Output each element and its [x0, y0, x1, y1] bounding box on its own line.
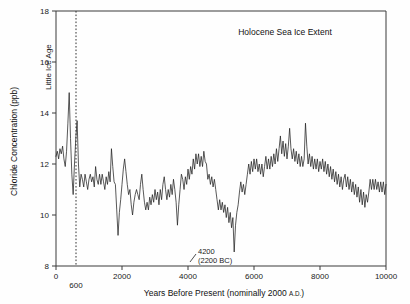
x-tick-label-4000: 4000 [179, 272, 197, 281]
holocene-sea-ice-chart: 8 10 12 14 16 18 0 2000 4000 6000 8000 1… [0, 0, 410, 304]
y-tick-label-18: 18 [40, 7, 49, 16]
little-ice-age-annotation: Little Ice Age 600 [44, 11, 83, 290]
x-axis-ticks: 0 2000 4000 6000 8000 10000 [54, 266, 398, 281]
x-tick-label-10000: 10000 [375, 272, 398, 281]
chloride-concentration-line [56, 93, 386, 252]
x-tick-label-0: 0 [54, 272, 59, 281]
x-tick-label-8000: 8000 [311, 272, 329, 281]
x-tick-label-2000: 2000 [113, 272, 131, 281]
data-series-group [56, 93, 386, 252]
y-tick-label-10: 10 [40, 211, 49, 220]
plot-frame [56, 11, 386, 266]
y-axis-title: Chloride Concentration (ppb) [9, 87, 19, 196]
chart-figure: 8 10 12 14 16 18 0 2000 4000 6000 8000 1… [0, 0, 410, 304]
x-axis-title-smallcaps: A.D. [289, 290, 301, 297]
x-tick-label-6000: 6000 [245, 272, 263, 281]
little-ice-age-label: Little Ice Age [44, 44, 53, 90]
axis-lines [56, 11, 386, 266]
plot-box-top-right [56, 11, 386, 266]
x-axis-title: Years Before Present (nominally 2000 A.D… [144, 288, 304, 298]
event-4200-annotation: 4200 (2200 BC) [190, 247, 233, 265]
event-4200-label-bc: (2200 BC) [198, 256, 233, 265]
y-tick-label-14: 14 [40, 109, 49, 118]
y-tick-label-12: 12 [40, 160, 49, 169]
y-tick-label-8: 8 [45, 262, 50, 271]
event-4200-label-year: 4200 [198, 247, 215, 256]
event-4200-leader-line [190, 254, 196, 262]
x-axis-title-tail: ) [301, 288, 304, 298]
chart-title: Holocene Sea Ice Extent [238, 27, 332, 37]
x-tick-label-600: 600 [69, 281, 83, 290]
x-axis-title-main: Years Before Present (nominally 2000 [144, 288, 289, 298]
